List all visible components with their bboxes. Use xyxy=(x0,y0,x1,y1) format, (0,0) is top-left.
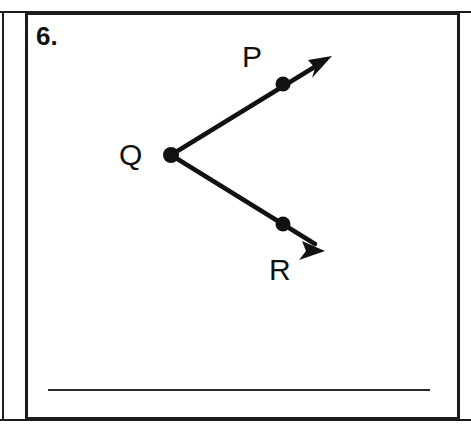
angle-figure-svg xyxy=(25,12,460,420)
point-label-q: Q xyxy=(119,140,142,170)
point-q-dot xyxy=(163,147,179,163)
worksheet-page: 6. P Q R xyxy=(0,0,471,432)
ray-qp-shaft xyxy=(171,63,321,155)
answer-line[interactable] xyxy=(48,389,430,391)
point-label-p: P xyxy=(242,42,262,72)
ray-qr-shaft xyxy=(171,155,315,244)
page-rule-left xyxy=(2,11,4,421)
angle-figure xyxy=(25,12,460,420)
point-p-dot xyxy=(276,77,291,92)
point-label-r: R xyxy=(269,255,291,285)
point-r-dot xyxy=(276,217,291,232)
